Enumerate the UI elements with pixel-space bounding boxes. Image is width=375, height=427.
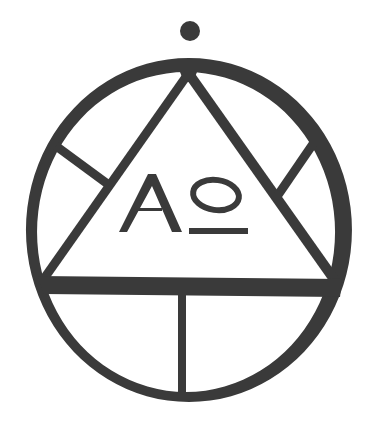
triangle-base-bar [38, 276, 342, 297]
alpha-glyph [119, 174, 182, 232]
right-connector [278, 144, 313, 195]
vertical-stem [178, 292, 186, 392]
omega-glyph [191, 177, 241, 213]
alpha-omega-symbol [0, 0, 375, 427]
top-dot-icon [180, 21, 200, 41]
left-connector [56, 146, 109, 185]
symbol-canvas [0, 0, 375, 427]
omega-underline [189, 228, 248, 234]
triangle-left-side [43, 74, 188, 280]
